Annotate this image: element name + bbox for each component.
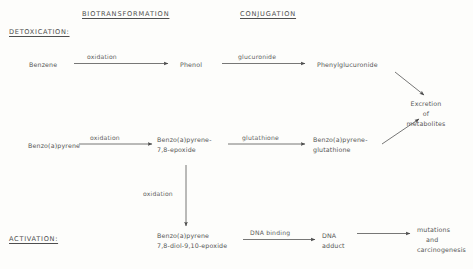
arrow-layer (0, 0, 473, 269)
edge-label-oxidation-vertical: oxidation (143, 190, 173, 197)
node-excretion-line-2: of (393, 109, 459, 119)
node-excretion-of-metabolites: Excretion of metabolites (393, 99, 459, 128)
node-benzo-a-pyrene-glutathione: Benzo(a)pyrene- glutathione (313, 135, 368, 155)
section-label-activation: ACTIVATION: (9, 235, 58, 243)
edge-label-oxidation-benzene: oxidation (87, 53, 117, 60)
column-header-conjugation: CONJUGATION (240, 10, 296, 18)
node-phenylglucuronide: Phenylglucuronide (317, 60, 378, 70)
column-header-biotransformation: BIOTRANSFORMATION (82, 10, 169, 18)
node-epoxide-line-2: 7,8-epoxide (157, 145, 212, 155)
node-outcome-line-1: mutations (417, 225, 466, 235)
node-dna-adduct-line-2: adduct (322, 241, 345, 251)
edge-label-glucuronide: glucuronide (238, 53, 276, 60)
edge-label-oxidation-benzopyrene: oxidation (90, 134, 120, 141)
node-dna-adduct: DNA adduct (322, 231, 345, 251)
node-dna-adduct-line-1: DNA (322, 231, 345, 241)
arrow-phenylglucuronide-to-excretion (395, 72, 424, 95)
node-outcome-line-3: carcinogenesis (417, 245, 466, 255)
node-diolepoxide-line-2: 7,8-diol-9,10-epoxide (157, 241, 227, 251)
node-mutations-and-carcinogenesis: mutations and carcinogenesis (417, 225, 466, 254)
node-benzene: Benzene (29, 60, 57, 70)
node-benzo-a-pyrene-diol-epoxide: Benzo(a)pyrene 7,8-diol-9,10-epoxide (157, 231, 227, 251)
edge-label-dna-binding: DNA binding (250, 229, 290, 236)
node-diolepoxide-line-1: Benzo(a)pyrene (157, 231, 227, 241)
node-excretion-line-1: Excretion (393, 99, 459, 109)
node-outcome-line-2: and (417, 235, 466, 245)
metabolism-pathway-diagram: BIOTRANSFORMATION CONJUGATION DETOXICATI… (0, 0, 473, 269)
node-epoxide-line-1: Benzo(a)pyrene- (157, 135, 212, 145)
node-phenol: Phenol (180, 60, 202, 70)
node-benzo-a-pyrene-7-8-epoxide: Benzo(a)pyrene- 7,8-epoxide (157, 135, 212, 155)
section-label-detoxication: DETOXICATION: (9, 28, 70, 36)
node-benzo-a-pyrene: Benzo(a)pyrene (28, 141, 80, 151)
node-excretion-line-3: metabolites (393, 119, 459, 129)
edge-label-glutathione: glutathione (242, 134, 279, 141)
node-glutathione-conjugate-line-2: glutathione (313, 145, 368, 155)
node-glutathione-conjugate-line-1: Benzo(a)pyrene- (313, 135, 368, 145)
